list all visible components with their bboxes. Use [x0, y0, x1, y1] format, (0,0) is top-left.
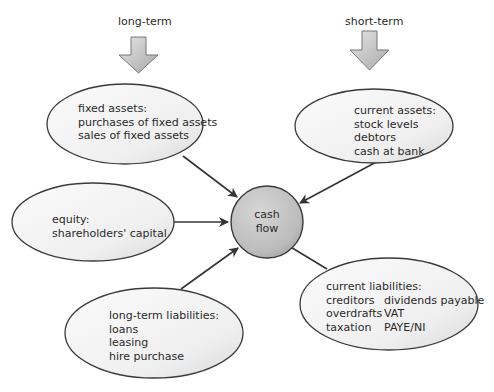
current-assets-item: debtors — [354, 131, 436, 145]
cash-flow-line1: cash — [237, 208, 297, 222]
current-liabilities-cell: VAT — [384, 307, 404, 321]
short-term-label: short-term — [345, 15, 403, 29]
current-liabilities-cell: taxation — [326, 321, 384, 335]
current-liabilities-cell: dividends payable — [384, 294, 484, 308]
current-liabilities-cell: overdrafts — [326, 307, 384, 321]
long-term-liabilities-item: loans — [109, 323, 219, 337]
long-term-liabilities-text: long-term liabilities: loans leasing hir… — [109, 309, 219, 363]
long-term-liabilities-title: long-term liabilities: — [109, 309, 219, 323]
cash-flow-label: cash flow — [237, 208, 297, 236]
current-liabilities-title: current liabilities: — [326, 280, 484, 294]
equity-item: shareholders' capital — [52, 227, 167, 241]
short-term-arrow-icon — [350, 31, 389, 70]
long-term-label: long-term — [118, 15, 172, 29]
current-liabilities-row: overdrafts VAT — [326, 307, 484, 321]
fixed-assets-item: purchases of fixed assets — [78, 116, 217, 130]
cash-flow-line2: flow — [237, 222, 297, 236]
current-liabilities-text: current liabilities: creditors dividends… — [326, 280, 484, 334]
current-assets-item: cash at bank — [354, 145, 436, 159]
current-assets-text: current assets: stock levels debtors cas… — [354, 104, 436, 158]
current-liabilities-cell: PAYE/NI — [384, 321, 425, 335]
long-term-arrow-icon — [119, 37, 158, 73]
fixed-assets-item: sales of fixed assets — [78, 129, 217, 143]
current-liabilities-cell: creditors — [326, 294, 384, 308]
long-term-liabilities-item: leasing — [109, 336, 219, 350]
current-assets-item: stock levels — [354, 118, 436, 132]
long-term-liabilities-item: hire purchase — [109, 350, 219, 364]
equity-title: equity: — [52, 213, 167, 227]
equity-text: equity: shareholders' capital — [52, 213, 167, 240]
current-liabilities-row: taxation PAYE/NI — [326, 321, 484, 335]
current-assets-title: current assets: — [354, 104, 436, 118]
current-liabilities-row: creditors dividends payable — [326, 294, 484, 308]
fixed-assets-text: fixed assets: purchases of fixed assets … — [78, 102, 217, 143]
fixed-assets-title: fixed assets: — [78, 102, 217, 116]
